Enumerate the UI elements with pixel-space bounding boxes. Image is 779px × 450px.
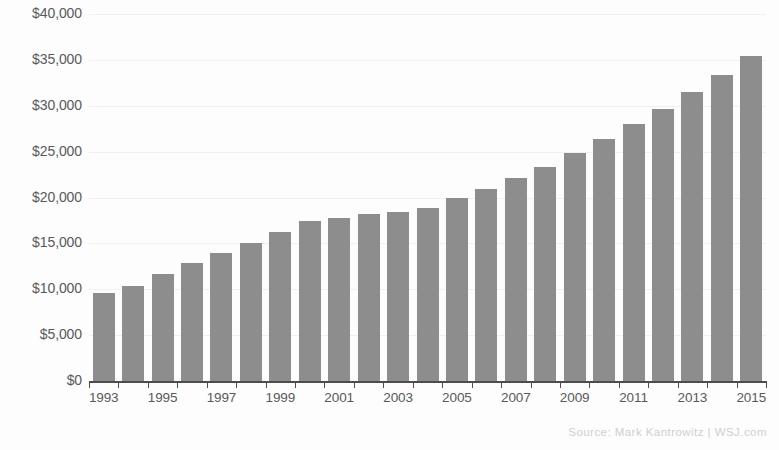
bar xyxy=(152,274,174,381)
x-axis-tick xyxy=(619,381,620,388)
bar xyxy=(652,109,674,381)
bar xyxy=(711,75,733,381)
y-axis-tick-label: $25,000 xyxy=(2,143,82,159)
bar xyxy=(269,232,291,381)
x-axis-tick xyxy=(678,381,679,388)
x-axis-tick xyxy=(118,381,119,388)
x-axis-tick xyxy=(266,381,267,388)
x-axis-tick-label: 2015 xyxy=(726,390,776,405)
x-axis-tick xyxy=(707,381,708,388)
bar xyxy=(593,139,615,381)
bar xyxy=(681,92,703,381)
x-axis-tick-label: 2005 xyxy=(432,390,482,405)
x-axis-tick-label: 2009 xyxy=(550,390,600,405)
x-axis-tick-label: 2007 xyxy=(491,390,541,405)
bar xyxy=(740,56,762,381)
bar xyxy=(505,178,527,381)
clipped-title xyxy=(0,0,779,10)
x-axis-tick-label: 1997 xyxy=(196,390,246,405)
bar xyxy=(240,243,262,381)
bar-series xyxy=(89,14,766,381)
x-axis-tick xyxy=(413,381,414,388)
source-credit: Source: Mark Kantrowitz | WSJ.com xyxy=(568,426,767,438)
y-axis-tick-label: $40,000 xyxy=(2,5,82,21)
plot-area xyxy=(89,14,766,381)
x-axis-tick xyxy=(354,381,355,388)
x-axis-labels: 1993199519971999200120032005200720092011… xyxy=(0,390,779,410)
bar xyxy=(122,286,144,381)
x-axis-tick xyxy=(648,381,649,388)
bar xyxy=(93,293,115,381)
x-axis-tick xyxy=(89,381,90,388)
x-axis-tick xyxy=(442,381,443,388)
x-axis-tick-label: 1999 xyxy=(255,390,305,405)
bar xyxy=(299,221,321,381)
x-axis-tick xyxy=(472,381,473,388)
x-axis-tick xyxy=(295,381,296,388)
bar xyxy=(328,218,350,381)
y-axis-tick-label: $5,000 xyxy=(2,326,82,342)
y-axis-labels: $0$5,000$10,000$15,000$20,000$25,000$30,… xyxy=(0,0,82,450)
bar xyxy=(564,153,586,381)
x-axis-tick xyxy=(589,381,590,388)
bar xyxy=(181,263,203,381)
x-axis-tick xyxy=(383,381,384,388)
x-axis-tick-label: 2013 xyxy=(667,390,717,405)
x-axis-line xyxy=(89,381,767,383)
x-axis-tick xyxy=(766,381,767,388)
x-axis-tick xyxy=(560,381,561,388)
x-axis-tick xyxy=(324,381,325,388)
x-axis-tick-label: 2003 xyxy=(373,390,423,405)
y-axis-tick-label: $15,000 xyxy=(2,234,82,250)
bar xyxy=(446,198,468,382)
x-axis-tick-label: 1993 xyxy=(79,390,129,405)
bar xyxy=(387,212,409,381)
bar xyxy=(475,189,497,381)
x-axis-tick xyxy=(236,381,237,388)
bar xyxy=(417,208,439,381)
y-axis-tick-label: $30,000 xyxy=(2,97,82,113)
bar-chart: $0$5,000$10,000$15,000$20,000$25,000$30,… xyxy=(0,0,779,450)
x-axis-tick xyxy=(148,381,149,388)
x-axis-tick xyxy=(207,381,208,388)
x-axis-tick-label: 1995 xyxy=(138,390,188,405)
bar xyxy=(358,214,380,381)
x-axis-tick xyxy=(737,381,738,388)
bar xyxy=(534,167,556,381)
y-axis-tick-label: $35,000 xyxy=(2,51,82,67)
x-axis-tick-label: 2001 xyxy=(314,390,364,405)
x-axis-tick xyxy=(501,381,502,388)
bar xyxy=(210,253,232,381)
y-axis-tick-label: $10,000 xyxy=(2,280,82,296)
x-axis-tick xyxy=(177,381,178,388)
x-axis-tick xyxy=(531,381,532,388)
y-axis-tick-label: $20,000 xyxy=(2,189,82,205)
bar xyxy=(623,124,645,381)
x-axis-tick-label: 2011 xyxy=(609,390,659,405)
y-axis-tick-label: $0 xyxy=(2,372,82,388)
